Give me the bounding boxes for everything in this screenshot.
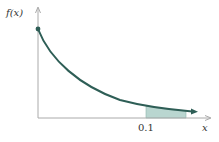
density-curve <box>38 29 193 112</box>
chart: f(x) 0.1 x <box>0 0 219 142</box>
start-point <box>36 27 41 32</box>
x-tick-label: 0.1 <box>138 122 154 133</box>
y-axis-label: f(x) <box>5 7 23 18</box>
curve-arrow-icon <box>191 109 198 115</box>
x-axis-label: x <box>202 122 208 133</box>
